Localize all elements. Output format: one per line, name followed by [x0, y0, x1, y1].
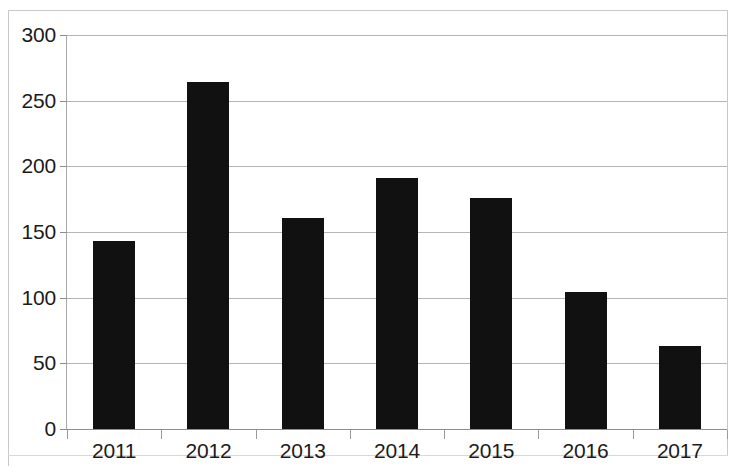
bar-2017	[659, 346, 701, 429]
x-axis-tick-4	[444, 430, 445, 439]
x-axis-label-2017: 2017	[633, 440, 727, 461]
y-axis-tick-150	[60, 232, 67, 233]
bar-chart-figure: 050100150200250300 201120122013201420152…	[0, 0, 736, 474]
y-axis-tick-100	[60, 298, 67, 299]
x-axis-tick-5	[538, 430, 539, 439]
y-axis-label-200: 200	[8, 155, 56, 176]
x-axis-label-2013: 2013	[256, 440, 350, 461]
y-axis-tick-200	[60, 166, 67, 167]
bar-2013	[282, 218, 324, 429]
bar-2015	[470, 198, 512, 429]
y-axis-label-100: 100	[8, 287, 56, 308]
x-axis-label-2015: 2015	[444, 440, 538, 461]
x-axis-label-2012: 2012	[161, 440, 255, 461]
y-axis-label-300: 300	[8, 24, 56, 45]
y-axis-label-250: 250	[8, 90, 56, 111]
x-axis-tick-1	[161, 430, 162, 439]
bar-2014	[376, 178, 418, 429]
x-axis-tick-2	[256, 430, 257, 439]
y-axis-tick-300	[60, 35, 67, 36]
x-axis-label-2014: 2014	[350, 440, 444, 461]
y-axis-tick-250	[60, 101, 67, 102]
plot-area	[67, 35, 727, 429]
bar-2016	[565, 292, 607, 429]
gridline-y-250	[67, 101, 727, 102]
y-axis-tick-labels: 050100150200250300	[4, 0, 56, 474]
bar-2011	[93, 241, 135, 429]
x-axis-label-2016: 2016	[538, 440, 632, 461]
x-axis-tick-end	[727, 430, 728, 439]
x-axis-line	[67, 429, 727, 430]
y-axis-tick-50	[60, 363, 67, 364]
y-axis-tick-0	[60, 429, 67, 430]
x-axis-tick-6	[633, 430, 634, 439]
gridline-y-200	[67, 166, 727, 167]
bar-2012	[187, 82, 229, 429]
x-axis-tick-3	[350, 430, 351, 439]
y-axis-label-0: 0	[8, 418, 56, 439]
y-axis-label-150: 150	[8, 221, 56, 242]
x-axis-tick-0	[67, 430, 68, 439]
x-axis-label-2011: 2011	[67, 440, 161, 461]
y-axis-label-50: 50	[8, 352, 56, 373]
figure-border-right	[727, 10, 728, 456]
gridline-y-300	[67, 35, 727, 36]
